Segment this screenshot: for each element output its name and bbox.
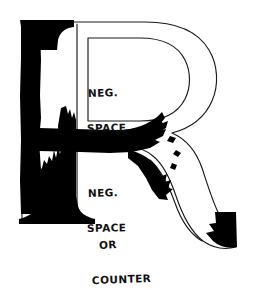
stem-left-edge (20, 26, 41, 214)
